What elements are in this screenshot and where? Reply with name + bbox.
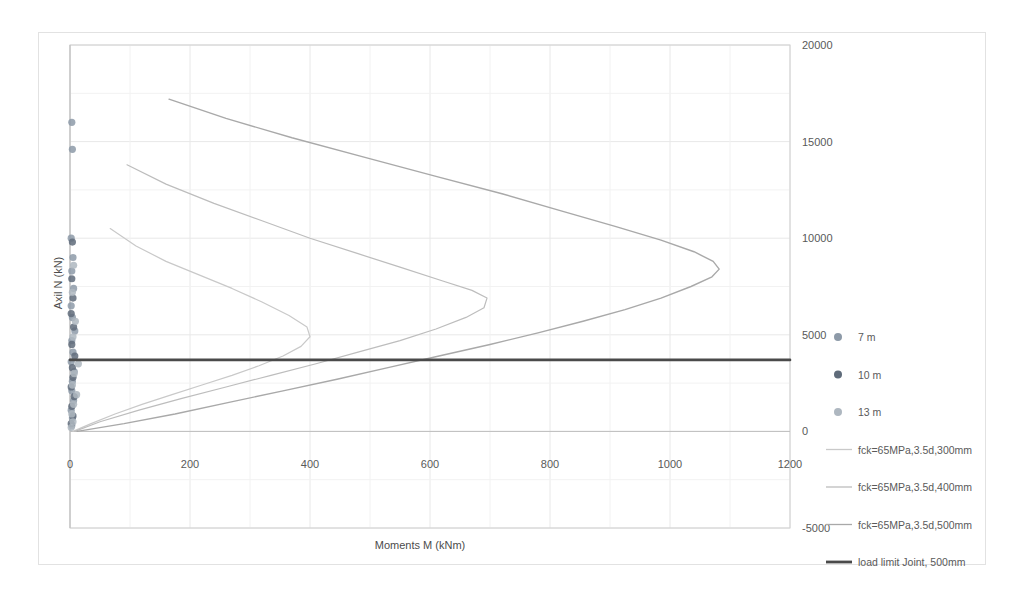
data-point <box>69 146 76 153</box>
x-tick-label: 200 <box>181 458 199 470</box>
data-point <box>73 391 80 398</box>
series-line-5 <box>77 99 719 431</box>
data-point <box>68 341 75 348</box>
data-point <box>68 302 75 309</box>
x-tick-label: 1200 <box>778 458 802 470</box>
legend-label: 10 m <box>858 369 882 381</box>
gridlines <box>70 45 790 528</box>
data-point <box>69 381 76 388</box>
y-tick-label: -5000 <box>802 522 830 534</box>
x-axis-title: Moments M (kNm) <box>375 539 465 551</box>
legend-label: fck=65MPa,3.5d,300mm <box>858 444 972 456</box>
legend-label: 13 m <box>858 406 882 418</box>
y-tick-label: 20000 <box>802 39 833 51</box>
y-tick-label: 15000 <box>802 136 833 148</box>
legend: 7 m10 m13 mfck=65MPa,3.5d,300mmfck=65MPa… <box>826 331 972 568</box>
y-axis-title: Axil N (kN) <box>52 257 64 310</box>
legend-label: fck=65MPa,3.5d,500mm <box>858 519 972 531</box>
legend-label: 7 m <box>858 331 876 343</box>
data-point <box>69 238 76 245</box>
data-point <box>72 318 79 325</box>
data-point <box>68 119 75 126</box>
data-point <box>70 262 77 269</box>
data-point <box>71 370 78 377</box>
x-tick-label: 0 <box>67 458 73 470</box>
y-tick-label: 5000 <box>802 329 826 341</box>
legend-label: fck=65MPa,3.5d,400mm <box>858 481 972 493</box>
x-tick-label: 1000 <box>658 458 682 470</box>
data-point <box>70 401 77 408</box>
x-tick-label: 600 <box>421 458 439 470</box>
legend-marker-dot <box>834 371 842 379</box>
x-tick-label: 400 <box>301 458 319 470</box>
data-point <box>68 275 75 282</box>
y-tick-label: 10000 <box>802 232 833 244</box>
legend-marker-dot <box>834 408 842 416</box>
y-tick-label: 0 <box>802 425 808 437</box>
data-point <box>75 360 82 367</box>
series-line-3 <box>73 229 310 432</box>
chart-canvas: 020040060080010001200-500005000100001500… <box>0 0 1025 597</box>
series-group <box>68 99 790 431</box>
data-point <box>68 424 75 431</box>
data-point <box>69 289 76 296</box>
data-point <box>68 310 75 317</box>
data-point <box>68 410 75 417</box>
x-tick-label: 800 <box>541 458 559 470</box>
data-point <box>69 254 76 261</box>
data-point <box>69 333 76 340</box>
data-point <box>71 352 78 359</box>
legend-label: load limit Joint, 500mm <box>858 556 966 568</box>
interaction-diagram: 020040060080010001200-500005000100001500… <box>0 0 1025 597</box>
legend-marker-dot <box>834 333 842 341</box>
